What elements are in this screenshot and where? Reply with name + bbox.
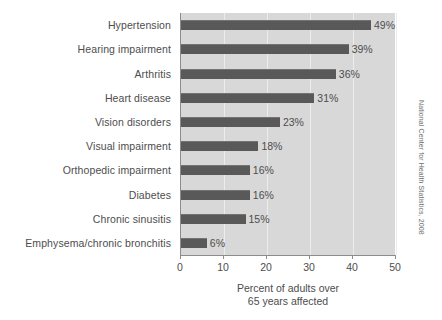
bar-row: 23%	[181, 110, 395, 134]
category-label: Orthopedic impairment	[63, 164, 171, 176]
bar-row: 16%	[181, 158, 395, 182]
category-label: Heart disease	[105, 92, 171, 104]
x-axis-tick	[309, 255, 310, 259]
category-label: Emphysema/chronic bronchitis	[25, 237, 171, 249]
x-axis-title-line2: 65 years affected	[180, 295, 396, 308]
bar-row: 16%	[181, 182, 395, 206]
category-axis-labels: Hypertension Hearing impairment Arthriti…	[0, 13, 177, 255]
category-label-row: Orthopedic impairment	[0, 158, 177, 182]
category-label: Hearing impairment	[78, 43, 171, 55]
bar	[181, 141, 258, 151]
category-label-row: Chronic sinusitis	[0, 207, 177, 231]
category-label-row: Heart disease	[0, 86, 177, 110]
bar	[181, 190, 250, 200]
x-axis-tick-label: 50	[389, 261, 401, 273]
category-label-row: Hearing impairment	[0, 37, 177, 61]
bar	[181, 93, 314, 103]
gridline	[396, 13, 397, 255]
bar	[181, 165, 250, 175]
bar-chart-figure: Hypertension Hearing impairment Arthriti…	[0, 0, 442, 320]
bar	[181, 117, 280, 127]
category-label: Chronic sinusitis	[93, 213, 171, 225]
category-label: Diabetes	[129, 189, 171, 201]
source-annotation: National Center for Health Statistics, 2…	[418, 100, 425, 260]
bar-row: 39%	[181, 37, 395, 61]
bar-value-label: 36%	[339, 68, 360, 80]
x-axis-tick	[352, 255, 353, 259]
x-axis-tick	[395, 255, 396, 259]
bar-series: 49% 39% 36% 31% 23% 18% 16% 16% 15% 6%	[181, 13, 395, 255]
bar-value-label: 16%	[253, 189, 274, 201]
category-label-row: Diabetes	[0, 182, 177, 206]
x-axis-tick	[266, 255, 267, 259]
x-axis-title: Percent of adults over 65 years affected	[180, 282, 396, 308]
x-axis-title-line1: Percent of adults over	[180, 282, 396, 295]
category-label: Arthritis	[135, 68, 172, 80]
category-label-row: Arthritis	[0, 61, 177, 85]
bar-value-label: 16%	[253, 164, 274, 176]
bar	[181, 69, 336, 79]
bar-row: 15%	[181, 207, 395, 231]
plot-area: 49% 39% 36% 31% 23% 18% 16% 16% 15% 6%	[180, 13, 395, 255]
bar-row: 36%	[181, 61, 395, 85]
x-axis-tick-label: 20	[260, 261, 272, 273]
bar-value-label: 6%	[210, 237, 225, 249]
category-label: Vision disorders	[95, 116, 171, 128]
category-label: Hypertension	[108, 19, 171, 31]
bar-value-label: 23%	[283, 116, 304, 128]
bar-row: 31%	[181, 86, 395, 110]
x-axis-tick-label: 40	[346, 261, 358, 273]
bar-row: 6%	[181, 231, 395, 255]
category-label-row: Emphysema/chronic bronchitis	[0, 231, 177, 255]
x-axis-tick-label: 0	[177, 261, 183, 273]
bar-value-label: 18%	[261, 140, 282, 152]
bar-row: 49%	[181, 13, 395, 37]
x-axis-tick	[180, 255, 181, 259]
bar	[181, 44, 349, 54]
x-axis-tick-label: 10	[217, 261, 229, 273]
bar	[181, 214, 246, 224]
bar-value-label: 15%	[249, 213, 270, 225]
category-label: Visual impairment	[86, 140, 171, 152]
bar-value-label: 31%	[317, 92, 338, 104]
bar-value-label: 49%	[374, 19, 395, 31]
category-label-row: Hypertension	[0, 13, 177, 37]
category-label-row: Visual impairment	[0, 134, 177, 158]
bar-row: 18%	[181, 134, 395, 158]
bar	[181, 20, 371, 30]
category-label-row: Vision disorders	[0, 110, 177, 134]
x-axis-tick-label: 30	[303, 261, 315, 273]
bar	[181, 238, 207, 248]
x-axis-tick	[223, 255, 224, 259]
x-axis-line	[180, 255, 396, 256]
bar-value-label: 39%	[352, 43, 373, 55]
